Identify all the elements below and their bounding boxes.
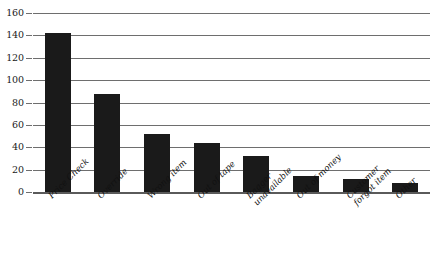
y-tick-label: 40 xyxy=(0,142,24,152)
y-tick-label: 140 xyxy=(0,30,24,40)
y-tick-label: 60 xyxy=(0,120,24,130)
x-axis-labels: Price CheckOverrideWrong itemOut of tape… xyxy=(33,194,438,257)
y-tick-mark xyxy=(26,192,32,193)
y-tick-mark xyxy=(26,103,32,104)
y-tick-label: 0 xyxy=(0,187,24,197)
y-tick-label: 80 xyxy=(0,98,24,108)
y-tick-mark xyxy=(26,170,32,171)
y-tick-mark xyxy=(26,147,32,148)
y-tick-label: 120 xyxy=(0,53,24,63)
bar xyxy=(45,33,71,192)
y-tick-mark xyxy=(26,35,32,36)
bar-chart: 020406080100120140160 Price CheckOverrid… xyxy=(0,0,438,257)
y-tick-mark xyxy=(26,58,32,59)
y-tick-mark xyxy=(26,80,32,81)
y-tick-label: 20 xyxy=(0,165,24,175)
y-tick-label: 160 xyxy=(0,8,24,18)
y-tick-mark xyxy=(26,125,32,126)
y-tick-label: 100 xyxy=(0,75,24,85)
y-tick-mark xyxy=(26,13,32,14)
